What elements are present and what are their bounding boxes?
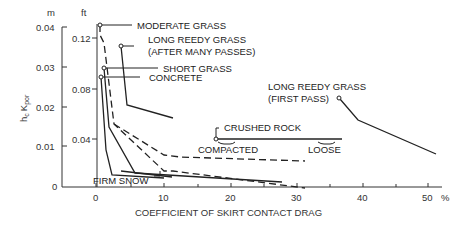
marker-short-grass bbox=[102, 66, 106, 70]
x-axis-label: COEFFICIENT OF SKIRT CONTACT DRAG bbox=[135, 207, 322, 218]
label-compacted: COMPACTED bbox=[198, 144, 258, 155]
series-long-reedy-first bbox=[340, 99, 436, 154]
label-long-reedy-first-1: LONG REEDY GRASS bbox=[268, 81, 366, 92]
label-long-reedy-many-2: (AFTER MANY PASSES) bbox=[148, 46, 255, 57]
x-tick-50: 50 bbox=[422, 192, 433, 203]
label-firm-snow: FIRM SNOW bbox=[93, 175, 148, 186]
label-long-reedy-first-2: (FIRST PASS) bbox=[268, 93, 329, 104]
marker-long-reedy-after-many bbox=[119, 44, 123, 48]
x-tick-20: 20 bbox=[225, 192, 236, 203]
y-tick-m-0.04: 0.04 bbox=[36, 22, 55, 33]
y-tick-m-0.02: 0.02 bbox=[36, 102, 55, 113]
y-tick-ft-0.12: 0.12 bbox=[72, 33, 91, 44]
y-tick-m-0.01: 0.01 bbox=[36, 141, 55, 152]
marker-long-reedy-first bbox=[337, 96, 341, 100]
label-concrete: CONCRETE bbox=[149, 72, 202, 83]
label-long-reedy-many-1: LONG REEDY GRASS bbox=[148, 34, 246, 45]
x-tick-30: 30 bbox=[291, 192, 302, 203]
y-tick-m-0.03: 0.03 bbox=[36, 62, 55, 73]
y-tick-ft-0.08: 0.08 bbox=[72, 84, 91, 95]
x-tick-0: 0 bbox=[93, 192, 98, 203]
marker-concrete bbox=[99, 75, 103, 79]
marker-moderate-grass bbox=[98, 23, 102, 27]
y-tick-m-0: 0 bbox=[52, 181, 57, 192]
label-crushed-rock: CRUSHED ROCK bbox=[224, 122, 302, 133]
y-tick-ft-0.04: 0.04 bbox=[72, 134, 91, 145]
unit-ft: ft bbox=[81, 7, 87, 18]
marker-crushed-rock bbox=[214, 137, 218, 141]
svg-text:hcKpor: hcKpor bbox=[18, 94, 31, 122]
chart: m ft 0.04 0.03 0.02 0.01 0 0.12 0.08 0.0… bbox=[0, 0, 464, 227]
x-tick-40: 40 bbox=[357, 192, 368, 203]
unit-m: m bbox=[47, 7, 55, 18]
y-axis-m bbox=[62, 27, 67, 187]
x-tick-10: 10 bbox=[158, 192, 169, 203]
x-unit: % bbox=[441, 192, 450, 203]
label-loose: LOOSE bbox=[308, 144, 341, 155]
y-axis-label: hcKpor bbox=[18, 94, 31, 122]
y-axis-ft bbox=[92, 24, 97, 187]
label-moderate-grass: MODERATE GRASS bbox=[137, 20, 226, 31]
